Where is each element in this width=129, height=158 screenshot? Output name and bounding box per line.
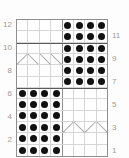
- cell-r9-c2: [28, 54, 39, 64]
- dot-icon: [41, 112, 48, 119]
- cell-r3-c2: [28, 122, 39, 132]
- cell-r1-c6: [74, 145, 85, 156]
- cell-r4-c2: [28, 111, 39, 121]
- cell-r12-c7: [85, 20, 96, 30]
- cell-r5-c3: [40, 99, 51, 109]
- cell-r6-c1: [17, 89, 28, 98]
- cell-r9-c7: [85, 54, 96, 64]
- cell-r8-c4: [51, 65, 62, 75]
- dot-icon: [41, 101, 48, 108]
- dot-icon: [64, 45, 71, 52]
- dot-icon: [19, 124, 26, 131]
- cell-r5-c1: [17, 99, 28, 109]
- dot-icon: [53, 101, 60, 108]
- cell-r10-c8: [97, 44, 107, 53]
- cell-r3-c1: [17, 122, 28, 132]
- row-label-right-1: 1: [109, 146, 129, 158]
- dot-icon: [76, 56, 83, 63]
- cell-r9-c8: [97, 54, 107, 64]
- increase-left-slant-icon: [63, 122, 73, 132]
- chart-row-7: [17, 77, 107, 88]
- cell-r11-c8: [97, 31, 107, 41]
- dot-icon: [30, 147, 37, 154]
- cell-r9-c1: [17, 54, 28, 64]
- cell-r2-c8: [97, 133, 107, 143]
- chart-row-6: [17, 88, 107, 99]
- cell-r6-c3: [40, 89, 51, 98]
- cell-r11-c5: [63, 31, 74, 41]
- dot-icon: [30, 101, 37, 108]
- cell-r4-c3: [40, 111, 51, 121]
- dot-icon: [41, 135, 48, 142]
- row-label-right-5: 5: [109, 100, 129, 112]
- cell-r1-c4: [51, 145, 62, 156]
- cell-r2-c7: [85, 133, 96, 143]
- dot-icon: [30, 90, 37, 97]
- row-label-right-11: 11: [109, 31, 129, 43]
- dot-icon: [98, 45, 105, 52]
- dot-icon: [41, 147, 48, 154]
- cell-r11-c6: [74, 31, 85, 41]
- cell-r4-c1: [17, 111, 28, 121]
- increase-left-slant-icon: [85, 122, 95, 132]
- cell-r2-c4: [51, 133, 62, 143]
- cell-r8-c8: [97, 65, 107, 75]
- dot-icon: [64, 33, 71, 40]
- chart-row-2: [17, 133, 107, 144]
- cell-r5-c7: [85, 99, 96, 109]
- cell-r2-c6: [74, 133, 85, 143]
- cell-r10-c3: [40, 44, 51, 53]
- cell-r11-c3: [40, 31, 51, 41]
- dot-icon: [19, 147, 26, 154]
- knitting-chart: 12 10 8 6 4 2: [0, 0, 129, 158]
- cell-r7-c4: [51, 77, 62, 87]
- cell-r9-c3: [40, 54, 51, 64]
- row-label-left-6: 6: [0, 88, 14, 100]
- row-numbers-right: 11 9 7 5 3 1: [109, 19, 129, 157]
- dot-icon: [64, 22, 71, 29]
- dot-icon: [87, 33, 94, 40]
- cell-r4-c5: [63, 111, 74, 121]
- cell-r7-c8: [97, 77, 107, 87]
- dot-icon: [64, 56, 71, 63]
- chart-row-12: [17, 20, 107, 31]
- cell-r6-c4: [51, 89, 62, 98]
- dot-icon: [76, 67, 83, 74]
- cell-r11-c1: [17, 31, 28, 41]
- dot-icon: [19, 135, 26, 142]
- dot-icon: [64, 67, 71, 74]
- dot-icon: [87, 67, 94, 74]
- decrease-right-slant-icon: [40, 54, 50, 64]
- chart-row-10: [17, 43, 107, 54]
- dot-icon: [41, 90, 48, 97]
- cell-r4-c7: [85, 111, 96, 121]
- cell-r2-c5: [63, 133, 74, 143]
- row-numbers-left: 12 10 8 6 4 2: [0, 19, 14, 157]
- cell-r6-c8: [97, 89, 107, 98]
- chart-row-8: [17, 65, 107, 76]
- dot-icon: [76, 78, 83, 85]
- cell-r9-c4: [51, 54, 62, 64]
- dot-icon: [98, 67, 105, 74]
- cell-r7-c6: [74, 77, 85, 87]
- dot-icon: [98, 33, 105, 40]
- cell-r11-c2: [28, 31, 39, 41]
- row-label-right-7: 7: [109, 77, 129, 89]
- dot-icon: [30, 124, 37, 131]
- dot-icon: [19, 101, 26, 108]
- dot-icon: [87, 45, 94, 52]
- cell-r11-c4: [51, 31, 62, 41]
- cell-r7-c2: [28, 77, 39, 87]
- cell-r8-c7: [85, 65, 96, 75]
- dot-icon: [98, 78, 105, 85]
- decrease-right-slant-icon: [28, 54, 38, 64]
- dot-icon: [87, 78, 94, 85]
- cell-r4-c4: [51, 111, 62, 121]
- dot-icon: [87, 56, 94, 63]
- cell-r1-c7: [85, 145, 96, 156]
- cell-r10-c6: [74, 44, 85, 53]
- cell-r1-c3: [40, 145, 51, 156]
- row-label-left-12: 12: [0, 19, 14, 31]
- cell-r5-c8: [97, 99, 107, 109]
- chart-row-9: [17, 54, 107, 65]
